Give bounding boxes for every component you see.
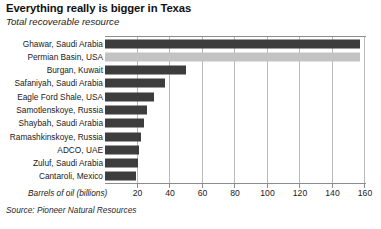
- x-axis-label: Barrels of oil (billions): [28, 188, 107, 198]
- bar-row: Cantaroli, Mexico: [0, 170, 381, 183]
- x-tick-label: 100: [256, 188, 280, 198]
- x-tick-label: 160: [353, 188, 377, 198]
- category-label: Shaybah, Saudi Arabia: [19, 119, 103, 128]
- bar-row: Shaybah, Saudi Arabia: [0, 117, 381, 130]
- category-label: Zuluf, Saudi Arabia: [33, 159, 103, 168]
- bar-row: Burgan, Kuwait: [0, 64, 381, 77]
- source-note: Source: Pioneer Natural Resources: [6, 205, 137, 215]
- chart-container: Everything really is bigger in Texas Tot…: [0, 0, 381, 229]
- bar: [105, 145, 139, 154]
- bar: [105, 105, 147, 114]
- bar: [105, 92, 154, 101]
- category-label: ADCO, UAE: [57, 145, 103, 154]
- bar: [105, 132, 141, 141]
- x-tick-label: 80: [223, 188, 247, 198]
- bar: [105, 39, 360, 48]
- category-label: Cantaroli, Mexico: [39, 172, 103, 181]
- category-label: Ghawar, Saudi Arabia: [23, 39, 103, 48]
- chart-subtitle: Total recoverable resource: [6, 16, 119, 27]
- x-tick-label: 40: [158, 188, 182, 198]
- bar: [105, 52, 360, 61]
- bar-row: Safaniyah, Saudi Arabia: [0, 77, 381, 90]
- x-tick-label: 20: [126, 188, 150, 198]
- category-label: Eagle Ford Shale, USA: [17, 92, 103, 101]
- bar: [105, 119, 144, 128]
- bar-row: Samotlenskoye, Russia: [0, 103, 381, 116]
- chart-title: Everything really is bigger in Texas: [6, 2, 191, 15]
- bar-row: Eagle Ford Shale, USA: [0, 90, 381, 103]
- category-label: Samotlenskoye, Russia: [16, 105, 103, 114]
- bar-row: Ramashkinskoye, Russia: [0, 130, 381, 143]
- category-label: Safaniyah, Saudi Arabia: [14, 79, 103, 88]
- bar-row: Permian Basin, USA: [0, 50, 381, 63]
- bar-row: ADCO, UAE: [0, 143, 381, 156]
- bar: [105, 66, 186, 75]
- category-label: Burgan, Kuwait: [47, 66, 103, 75]
- bar-row: Zuluf, Saudi Arabia: [0, 156, 381, 169]
- category-label: Permian Basin, USA: [27, 52, 103, 61]
- category-label: Ramashkinskoye, Russia: [10, 132, 103, 141]
- x-tick-label: 140: [321, 188, 345, 198]
- bar: [105, 159, 138, 168]
- bar: [105, 79, 165, 88]
- x-tick-label: 120: [288, 188, 312, 198]
- plot-bottom-rule: [105, 183, 366, 184]
- bar-row: Ghawar, Saudi Arabia: [0, 37, 381, 50]
- bar: [105, 172, 136, 181]
- x-tick-label: 60: [191, 188, 215, 198]
